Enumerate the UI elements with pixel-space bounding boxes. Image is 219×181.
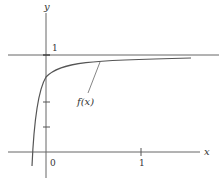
function-curve xyxy=(32,58,191,166)
label-pointer xyxy=(88,62,100,93)
function-graph: y x 1 0 1 f(x) xyxy=(0,0,219,181)
x-tick-label-1: 1 xyxy=(139,158,145,168)
curve-label: f(x) xyxy=(76,96,94,107)
y-tick-label-1: 1 xyxy=(52,43,58,53)
y-axis-label: y xyxy=(43,1,50,12)
x-tick-label-0: 0 xyxy=(50,158,56,168)
x-axis-label: x xyxy=(204,146,210,157)
